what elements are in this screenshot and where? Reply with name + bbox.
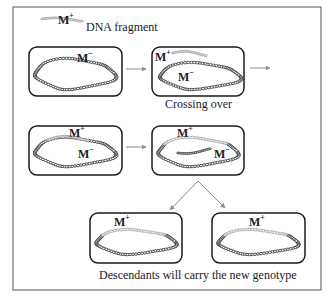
cell-3-label-m-plus: M+ <box>69 124 85 141</box>
cell-5-chromosome <box>95 228 179 256</box>
cell-4-label-m-plus: M+ <box>177 124 193 141</box>
recombination-diagram <box>0 0 329 299</box>
descendants-caption: Descendants will carry the new genotype <box>99 268 297 283</box>
diagram-stage: M+ DNA fragment M− M+ M− Crossing over M… <box>0 0 329 299</box>
arrow-to-cell5 <box>170 181 198 210</box>
cell-3-label-m-minus: M− <box>78 145 94 162</box>
cell-2-fragment <box>172 51 208 57</box>
crossing-over-caption: Crossing over <box>165 97 232 112</box>
cell-2-label-m-plus: M+ <box>155 48 171 65</box>
cell-6-chromosome <box>217 228 301 256</box>
legend-text: DNA fragment <box>86 20 158 35</box>
cell-4-label-m-minus: M− <box>214 145 230 162</box>
cell-4-excised-segment <box>177 148 212 155</box>
cell-2-label-m-minus: M− <box>178 68 194 85</box>
arrow-to-cell6 <box>198 181 225 208</box>
cell-1-label-m-minus: M− <box>77 49 93 66</box>
legend-fragment-label: M+ <box>58 11 74 28</box>
cell-2-chromosome <box>158 61 243 91</box>
cell-5-label-m-plus: M+ <box>114 213 130 230</box>
cell-4-border <box>152 126 244 175</box>
cell-6-label-m-plus: M+ <box>249 213 265 230</box>
cell-1-chromosome <box>33 57 118 91</box>
